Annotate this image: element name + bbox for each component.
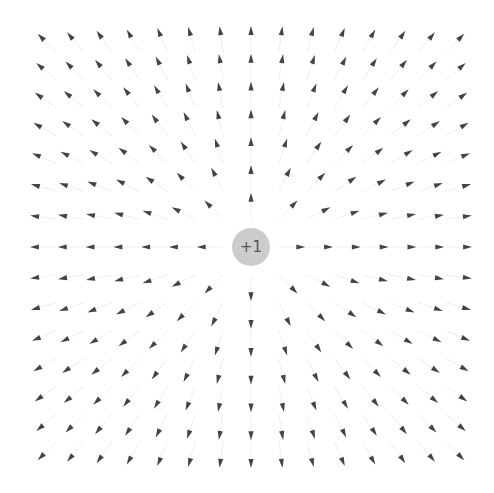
electric-field-diagram: +1 [0, 0, 494, 493]
field-arrow-icon [152, 371, 160, 380]
field-arrow-icon [463, 214, 472, 219]
field-arrow-icon [127, 456, 134, 465]
field-arrow-icon [248, 165, 253, 174]
field-arrow-icon [377, 180, 386, 186]
field-arrow-icon [169, 244, 178, 249]
field-arrow-icon [312, 373, 318, 382]
field-arrow-icon [211, 317, 217, 326]
field-arrow-icon [321, 207, 330, 213]
field-arrow-icon [309, 27, 314, 36]
field-arrow-icon [97, 454, 104, 463]
field-arrow-icon [61, 152, 70, 158]
field-arrow-icon [343, 371, 351, 380]
field-arrow-icon [341, 400, 348, 409]
field-arrow-icon [350, 211, 359, 216]
field-arrow-icon [89, 150, 98, 157]
field-arrow-icon [89, 337, 98, 344]
field-arrow-icon [146, 177, 155, 184]
field-arrow-icon [152, 115, 160, 124]
field-arrow-icon [280, 403, 285, 412]
field-arrow-icon [59, 306, 68, 311]
field-arrow-icon [248, 109, 253, 118]
field-arrow-icon [156, 428, 162, 437]
field-arrow-icon [407, 276, 416, 281]
field-arrow-icon [188, 27, 193, 36]
field-arrow-icon [284, 317, 290, 326]
field-arrow-icon [59, 183, 68, 188]
field-arrow-icon [434, 183, 443, 188]
field-arrow-icon [407, 213, 416, 218]
field-arrow-icon [87, 182, 96, 188]
field-arrow-icon [141, 244, 150, 249]
field-arrow-icon [280, 82, 285, 91]
field-arrow-icon [314, 344, 321, 353]
field-arrow-icon [460, 365, 469, 372]
field-arrow-icon [375, 148, 384, 156]
field-arrow-icon [35, 394, 44, 401]
field-arrow-icon [248, 292, 253, 301]
field-arrow-icon [312, 112, 318, 121]
field-arrow-icon [154, 400, 161, 409]
field-arrow-icon [462, 184, 471, 189]
field-arrow-icon [461, 335, 470, 341]
field-arrow-icon [248, 431, 253, 440]
field-arrow-icon [143, 211, 152, 216]
field-arrow-icon [352, 244, 361, 249]
field-arrow-icon [380, 244, 389, 249]
field-arrow-icon [431, 121, 440, 128]
field-arrow-icon [434, 306, 443, 311]
field-arrow-icon [296, 244, 305, 249]
field-arrow-icon [157, 457, 163, 466]
field-arrow-icon [350, 278, 359, 283]
field-arrow-icon [248, 54, 253, 63]
field-arrow-icon [282, 346, 287, 355]
field-arrow-icon [218, 459, 223, 468]
field-arrow-icon [435, 244, 444, 249]
field-arrow-icon [324, 244, 333, 249]
point-charge[interactable]: +1 [232, 228, 270, 266]
field-arrow-icon [116, 180, 125, 186]
field-arrow-icon [61, 336, 70, 342]
field-arrow-icon [156, 57, 162, 66]
field-arrow-icon [216, 110, 221, 119]
field-arrow-icon [321, 280, 330, 286]
field-arrow-icon [375, 339, 384, 347]
charge-label: +1 [240, 238, 262, 256]
field-arrow-icon [32, 335, 41, 341]
field-arrow-icon [218, 54, 223, 63]
field-arrow-icon [181, 344, 188, 353]
field-arrow-icon [311, 83, 317, 92]
field-arrow-icon [248, 193, 253, 202]
field-arrow-icon [187, 430, 192, 439]
field-arrow-icon [431, 366, 440, 373]
field-arrow-icon [188, 458, 193, 467]
field-arrow-icon [370, 58, 377, 67]
field-arrow-icon [398, 454, 405, 463]
field-arrow-icon [405, 182, 414, 188]
field-arrow-icon [248, 404, 253, 413]
field-arrow-icon [463, 244, 472, 249]
field-arrow-icon [33, 365, 42, 372]
field-arrow-icon [348, 177, 357, 184]
field-arrow-icon [184, 373, 190, 382]
field-arrow-icon [348, 310, 357, 317]
field-arrow-icon [432, 152, 441, 158]
field-arrow-icon [143, 278, 152, 283]
field-arrow-icon [215, 139, 220, 148]
field-arrow-icon [458, 394, 467, 401]
field-arrow-icon [30, 275, 39, 280]
field-arrow-icon [97, 31, 104, 40]
field-arrow-icon [282, 139, 287, 148]
field-arrow-icon [248, 348, 253, 357]
field-arrow-icon [462, 305, 471, 310]
field-arrow-icon [127, 29, 134, 38]
field-arrow-icon [398, 31, 405, 40]
field-arrow-icon [408, 244, 417, 249]
field-arrow-icon [340, 57, 346, 66]
field-arrow-icon [31, 305, 40, 310]
field-arrow-icon [114, 277, 123, 282]
field-arrow-icon [58, 275, 67, 280]
field-arrow-icon [432, 336, 441, 342]
field-arrow-icon [341, 85, 348, 94]
field-arrow-icon [86, 244, 95, 249]
